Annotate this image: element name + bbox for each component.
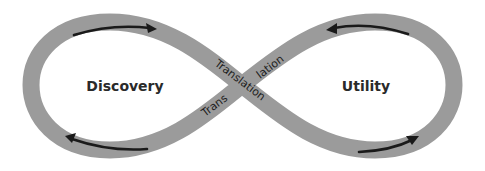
utility-label: Utility (342, 78, 390, 94)
discovery-label: Discovery (86, 78, 163, 94)
infinity-loop-diagram: Discovery Utility Translation lation Tra… (0, 0, 485, 171)
